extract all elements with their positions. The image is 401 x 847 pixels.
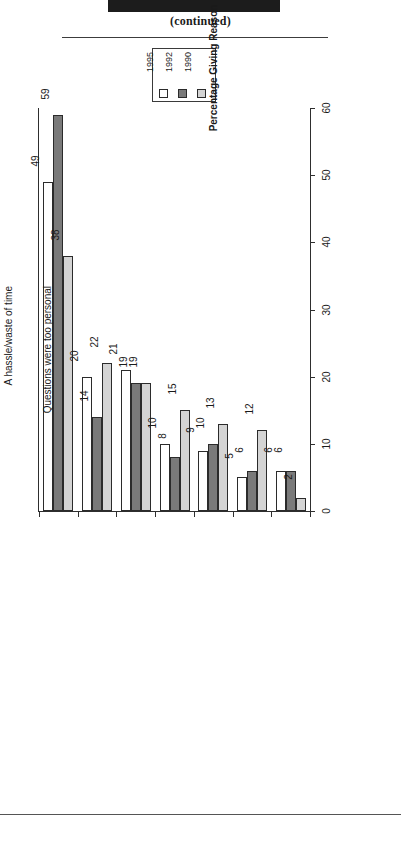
category-label: No time/in hurry bbox=[51, 522, 65, 772]
bar-value-label: 59 bbox=[51, 87, 65, 113]
bar-value-label: 38 bbox=[61, 228, 75, 254]
bar-value-label: 13 bbox=[216, 396, 230, 422]
bar bbox=[296, 498, 306, 511]
value-axis-title: Percentage Giving Reason bbox=[352, 60, 368, 220]
category-tick bbox=[194, 512, 195, 517]
value-tick bbox=[310, 242, 315, 243]
bar bbox=[141, 383, 151, 511]
bar bbox=[247, 471, 257, 511]
category-tick bbox=[271, 512, 272, 517]
category-label: Do not want to be bothered/invasion of p… bbox=[168, 522, 182, 772]
bar-value-label: 15 bbox=[178, 382, 192, 408]
bar bbox=[102, 363, 112, 511]
value-tick-label: 10 bbox=[316, 437, 338, 451]
category-tick bbox=[116, 512, 117, 517]
bar bbox=[131, 383, 141, 511]
bar bbox=[121, 370, 131, 511]
bar-value-label: 2 bbox=[294, 470, 308, 496]
bar-value-label: 12 bbox=[255, 402, 269, 428]
bar-value-label: 19 bbox=[139, 355, 153, 381]
category-axis-title: Reason bbox=[26, 530, 42, 590]
bar bbox=[170, 457, 180, 511]
category-label: Inopportune time/timing inappropriate bbox=[90, 522, 104, 772]
value-tick-label: 30 bbox=[316, 303, 338, 317]
value-tick bbox=[310, 377, 315, 378]
value-tick-label: 0 bbox=[316, 504, 338, 518]
bar bbox=[198, 451, 208, 511]
category-label: Not interested/does not apply to me bbox=[129, 522, 143, 772]
value-tick-label: 20 bbox=[316, 370, 338, 384]
category-tick bbox=[155, 512, 156, 517]
value-tick-label: 50 bbox=[316, 168, 338, 182]
bar bbox=[237, 477, 247, 511]
value-tick-label: 60 bbox=[316, 101, 338, 115]
bar bbox=[63, 256, 73, 511]
value-tick bbox=[310, 175, 315, 176]
category-label: A hassle/waste of time bbox=[245, 522, 259, 772]
value-tick bbox=[310, 444, 315, 445]
category-tick bbox=[39, 512, 40, 517]
value-tick bbox=[310, 310, 315, 311]
bar-chart-plot: Percentage Giving Reason Reason 01020304… bbox=[0, 0, 401, 847]
category-tick bbox=[310, 512, 311, 517]
category-label: Believed it was a sales pitch bbox=[206, 522, 220, 772]
category-label: Questions were too personal bbox=[284, 522, 298, 772]
category-tick bbox=[78, 512, 79, 517]
value-tick bbox=[310, 108, 315, 109]
footer-rule bbox=[0, 814, 401, 815]
value-tick-label: 40 bbox=[316, 235, 338, 249]
bar bbox=[92, 417, 102, 511]
category-tick bbox=[233, 512, 234, 517]
bar bbox=[208, 444, 218, 511]
